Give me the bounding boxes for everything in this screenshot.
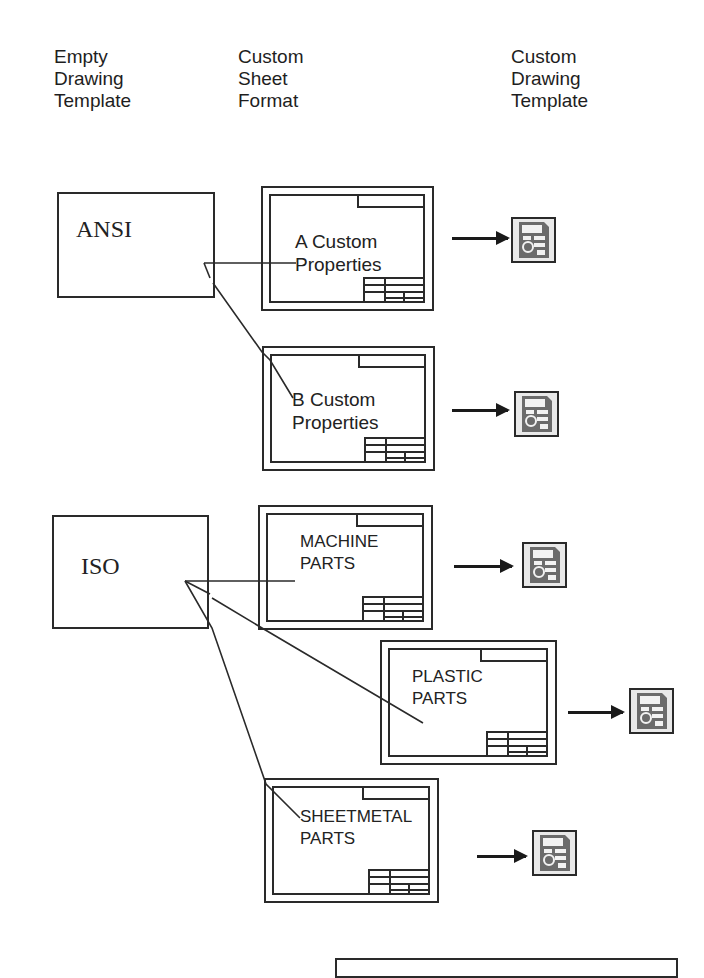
header-line: Format (238, 90, 303, 112)
sheet-label-line2: PARTS (300, 828, 412, 850)
sheet-label-line2: PARTS (300, 553, 378, 575)
header-line: Drawing (54, 68, 131, 90)
sheet-b-custom-properties: B Custom Properties (262, 346, 435, 471)
sheet-label-line1: PLASTIC (412, 666, 483, 688)
header-line: Drawing (511, 68, 588, 90)
sheet-sheetmetal-parts: SHEETMETAL PARTS (264, 778, 439, 903)
header-empty-drawing-template: Empty Drawing Template (54, 46, 131, 112)
sheet-label: PLASTIC PARTS (412, 666, 483, 710)
sheet-tab (356, 513, 424, 527)
sheet-label: A Custom Properties (295, 230, 382, 276)
sheet-label: SHEETMETAL PARTS (300, 806, 412, 850)
header-custom-sheet-format: Custom Sheet Format (238, 46, 303, 112)
header-line: Template (54, 90, 131, 112)
drawing-template-file-icon (514, 391, 559, 437)
arrow-right (454, 565, 512, 568)
header-line: Sheet (238, 68, 303, 90)
sheet-tab (480, 648, 548, 662)
template-label: ISO (81, 553, 120, 580)
sheet-plastic-parts: PLASTIC PARTS (380, 640, 557, 765)
sheet-label-line2: Properties (295, 253, 382, 276)
drawing-template-file-icon (511, 217, 556, 263)
drawing-template-file-icon (532, 830, 577, 876)
sheet-a-custom-properties: A Custom Properties (261, 186, 434, 311)
sheet-tab (362, 786, 430, 800)
template-label: ANSI (76, 216, 132, 243)
title-block (364, 437, 426, 463)
sheet-label-line2: PARTS (412, 688, 483, 710)
sheet-label-line1: A Custom (295, 230, 382, 253)
header-line: Custom (511, 46, 588, 68)
arrow-right (452, 237, 508, 240)
title-block (368, 869, 430, 895)
sheet-label-line1: B Custom (292, 388, 379, 411)
drawing-template-file-icon (522, 542, 567, 588)
arrow-right (568, 711, 623, 714)
sheet-label-line1: SHEETMETAL (300, 806, 412, 828)
sheet-label-line1: MACHINE (300, 531, 378, 553)
drawing-template-file-icon (629, 688, 674, 734)
header-line: Template (511, 90, 588, 112)
sheet-tab (358, 354, 426, 368)
title-block (363, 277, 425, 303)
template-ansi: ANSI (57, 192, 215, 298)
partial-box-cropped (335, 958, 678, 978)
header-custom-drawing-template: Custom Drawing Template (511, 46, 588, 112)
arrow-right (477, 855, 526, 858)
template-iso: ISO (52, 515, 209, 629)
header-line: Custom (238, 46, 303, 68)
sheet-machine-parts: MACHINE PARTS (258, 505, 433, 630)
sheet-tab (357, 194, 425, 208)
title-block (362, 596, 424, 622)
title-block (486, 731, 548, 757)
header-line: Empty (54, 46, 131, 68)
sheet-label: MACHINE PARTS (300, 531, 378, 575)
sheet-label-line2: Properties (292, 411, 379, 434)
arrow-right (452, 409, 508, 412)
sheet-label: B Custom Properties (292, 388, 379, 434)
